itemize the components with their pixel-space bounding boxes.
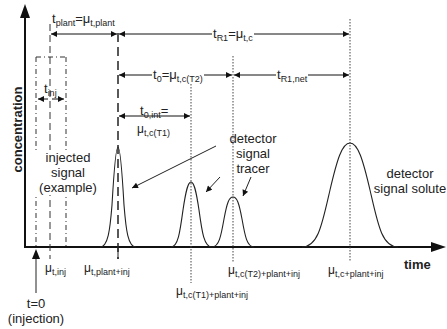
t-0-int-label: t0,int=	[140, 104, 168, 117]
tracer-arrow-to-plant	[132, 146, 216, 188]
t-R1-net-label: tR1,net	[276, 68, 308, 81]
mu-T1-tick-label: μt,c(T1)+plant+inj	[176, 285, 248, 297]
t-inj-label: tinj	[44, 82, 57, 95]
mu-T2-tick-label: μt,c(T2)+plant+inj	[228, 264, 300, 276]
mu-c-tick-label: μt,c+plant+inj	[328, 264, 383, 276]
detector-tracer-label: detector signal tracer	[218, 131, 288, 176]
mu-plant-inj-tick-label: μt,plant+inj	[84, 262, 130, 274]
t-R1-label: tR1=μt,c	[212, 27, 254, 40]
t-0-int-mu-label: μt,c(T1)	[137, 123, 170, 135]
t-plant-label: tplant=μt,plant	[52, 12, 115, 25]
tracer-arrow-to-T1	[206, 177, 220, 192]
x-axis	[24, 242, 446, 252]
x-axis-label: time	[404, 258, 431, 271]
injection-origin-label: t=0 (injection)	[4, 296, 68, 326]
t-0-label: t0=μt,c(T2)	[152, 68, 204, 81]
mu-inj-tick-label: μt,inj	[45, 262, 66, 274]
detector-solute-label: detector signal solute	[372, 166, 447, 196]
y-axis-label: concentration	[10, 75, 25, 185]
injected-signal-label: injected signal (example)	[34, 150, 102, 195]
tracer-arrow-to-T2	[243, 177, 251, 196]
